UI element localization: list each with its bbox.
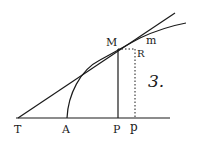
geometry-figure: T A P p M m R 3. [0, 0, 197, 144]
label-A: A [61, 123, 71, 136]
figure-number: 3. [148, 71, 164, 91]
label-P: P [113, 123, 121, 136]
label-M: M [106, 36, 117, 49]
label-m: m [146, 34, 157, 47]
label-p: p [130, 120, 138, 134]
figure-canvas: T A P p M m R 3. [0, 0, 197, 144]
curve [67, 23, 186, 118]
label-T: T [14, 123, 22, 136]
label-R: R [137, 48, 145, 59]
tangent-line [18, 13, 175, 118]
